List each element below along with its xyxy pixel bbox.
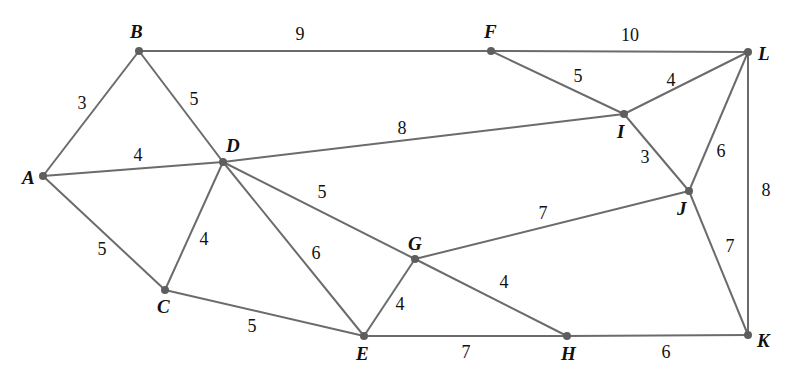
node-i bbox=[620, 110, 628, 118]
edge-f-i bbox=[491, 51, 624, 114]
weight-label-f-i: 5 bbox=[574, 66, 583, 86]
weighted-graph-diagram: 34559456584747105436786 ABCDEFGHIJKL bbox=[0, 0, 798, 384]
node-label-a: A bbox=[21, 167, 35, 188]
node-label-k: K bbox=[756, 330, 771, 351]
node-l bbox=[744, 48, 752, 56]
node-j bbox=[685, 187, 693, 195]
node-c bbox=[161, 286, 169, 294]
weight-label-f-l: 10 bbox=[621, 25, 639, 45]
node-label-l: L bbox=[757, 43, 770, 64]
node-g bbox=[411, 255, 419, 263]
weight-label-j-l: 6 bbox=[717, 141, 726, 161]
weight-label-d-g: 5 bbox=[318, 182, 327, 202]
weight-label-e-g: 4 bbox=[396, 294, 405, 314]
edge-f-l bbox=[491, 51, 748, 52]
node-label-d: D bbox=[225, 135, 240, 156]
node-e bbox=[360, 332, 368, 340]
node-label-g: G bbox=[408, 233, 422, 254]
edge-d-i bbox=[223, 114, 624, 162]
edge-a-c bbox=[43, 176, 165, 290]
node-label-b: B bbox=[129, 21, 143, 42]
weight-label-i-l: 4 bbox=[667, 70, 676, 90]
node-k bbox=[744, 331, 752, 339]
node-f bbox=[487, 47, 495, 55]
weight-label-layer: 34559456584747105436786 bbox=[78, 24, 771, 362]
node-label-i: I bbox=[616, 121, 625, 142]
edge-g-h bbox=[415, 259, 567, 336]
edge-a-b bbox=[43, 51, 139, 176]
node-label-c: C bbox=[157, 296, 170, 317]
weight-label-d-e: 6 bbox=[312, 243, 321, 263]
weight-label-g-h: 4 bbox=[500, 272, 509, 292]
edge-c-d bbox=[165, 162, 223, 290]
weight-label-b-f: 9 bbox=[296, 24, 305, 44]
weight-label-j-k: 7 bbox=[726, 236, 735, 256]
edge-d-e bbox=[223, 162, 364, 336]
node-a bbox=[39, 172, 47, 180]
node-h bbox=[563, 332, 571, 340]
edge-b-d bbox=[139, 51, 223, 162]
node-label-h: H bbox=[560, 343, 577, 364]
edge-i-j bbox=[624, 114, 689, 191]
weight-label-a-b: 3 bbox=[78, 93, 87, 113]
edge-e-g bbox=[364, 259, 415, 336]
node-d bbox=[219, 158, 227, 166]
edge-g-j bbox=[415, 191, 689, 259]
weight-label-i-j: 3 bbox=[641, 147, 650, 167]
weight-label-b-d: 5 bbox=[190, 89, 199, 109]
node-label-e: E bbox=[355, 343, 369, 364]
weight-label-g-j: 7 bbox=[539, 203, 548, 223]
edge-j-k bbox=[689, 191, 748, 335]
edge-i-l bbox=[624, 52, 748, 114]
weight-label-h-k: 6 bbox=[662, 342, 671, 362]
node-label-f: F bbox=[483, 21, 497, 42]
weight-label-l-k: 8 bbox=[762, 180, 771, 200]
node-b bbox=[135, 47, 143, 55]
weight-label-e-h: 7 bbox=[462, 342, 471, 362]
edge-j-l bbox=[689, 52, 748, 191]
weight-label-a-d: 4 bbox=[134, 145, 143, 165]
edge-c-e bbox=[165, 290, 364, 336]
weight-label-a-c: 5 bbox=[98, 239, 107, 259]
node-label-j: J bbox=[676, 198, 687, 219]
weight-label-c-e: 5 bbox=[248, 316, 257, 336]
weight-label-c-d: 4 bbox=[200, 229, 209, 249]
weight-label-d-i: 8 bbox=[398, 118, 407, 138]
edge-h-k bbox=[567, 335, 748, 336]
